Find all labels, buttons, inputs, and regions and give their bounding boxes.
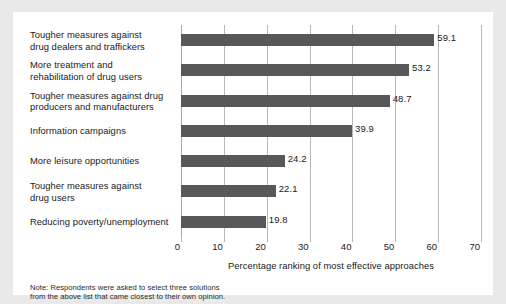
category-label: Information campaigns	[30, 125, 180, 137]
category-label: Reducing poverty/unemployment	[30, 216, 180, 228]
bar-value-label: 24.2	[288, 153, 307, 164]
bar-row: 19.8	[181, 207, 481, 237]
x-tick-mark-20	[267, 237, 268, 242]
bar	[181, 64, 409, 76]
bar-value-label: 48.7	[393, 93, 412, 104]
x-tick-mark-40	[352, 237, 353, 242]
category-label: Tougher measures against drugproducers a…	[30, 90, 180, 113]
category-label-line: Tougher measures against drug	[30, 90, 180, 102]
x-tick-label-10: 10	[193, 241, 223, 252]
x-tick-mark-60	[438, 237, 439, 242]
chart-note-line-1: Note: Respondents were asked to select t…	[30, 283, 225, 292]
x-tick-label-20: 20	[236, 241, 266, 252]
chart-figure: Tougher measures againstdrug dealers and…	[13, 12, 493, 295]
chart-note: Note: Respondents were asked to select t…	[30, 283, 225, 302]
bar-value-label: 39.9	[355, 123, 374, 134]
gridline-70	[481, 25, 482, 237]
x-tick-mark-30	[310, 237, 311, 242]
category-axis-labels: Tougher measures againstdrug dealers and…	[13, 25, 176, 237]
category-label: Tougher measures againstdrug users	[30, 180, 180, 203]
bar-row: 53.2	[181, 55, 481, 85]
x-tick-label-50: 50	[364, 241, 394, 252]
x-tick-label-0: 0	[150, 241, 180, 252]
category-label: More leisure opportunities	[30, 155, 180, 167]
bar-value-label: 19.8	[269, 214, 288, 225]
plot-area: 59.153.248.739.924.222.119.8	[181, 25, 481, 237]
x-axis: 010203040506070	[181, 237, 481, 255]
bar-value-label: 59.1	[437, 32, 456, 43]
bar-value-label: 53.2	[412, 62, 431, 73]
x-tick-mark-70	[481, 237, 482, 242]
category-label-line: Tougher measures against	[30, 180, 180, 192]
bar	[181, 125, 352, 137]
bar	[181, 155, 285, 167]
x-tick-label-40: 40	[321, 241, 351, 252]
category-label-line: More treatment and	[30, 59, 180, 71]
bar-row: 24.2	[181, 146, 481, 176]
x-axis-title: Percentage ranking of most effective app…	[181, 260, 481, 271]
bar	[181, 185, 276, 197]
chart-note-line-2: from the above list that came closest to…	[30, 292, 225, 301]
x-tick-mark-50	[395, 237, 396, 242]
x-tick-mark-10	[224, 237, 225, 242]
category-label-line: Information campaigns	[30, 125, 180, 137]
x-tick-label-60: 60	[407, 241, 437, 252]
category-label-line: Reducing poverty/unemployment	[30, 216, 180, 228]
x-tick-label-30: 30	[279, 241, 309, 252]
x-tick-mark-0	[181, 237, 182, 242]
bar-row: 59.1	[181, 25, 481, 55]
category-label-line: rehabilitation of drug users	[30, 71, 180, 83]
category-label: Tougher measures againstdrug dealers and…	[30, 29, 180, 52]
category-label-line: drug users	[30, 192, 180, 204]
bar	[181, 34, 434, 46]
bar	[181, 216, 266, 228]
category-label-line: More leisure opportunities	[30, 155, 180, 167]
bar-row: 22.1	[181, 176, 481, 206]
category-label-line: producers and manufacturers	[30, 101, 180, 113]
category-label: More treatment andrehabilitation of drug…	[30, 59, 180, 82]
category-label-line: Tougher measures against	[30, 29, 180, 41]
bar-value-label: 22.1	[279, 183, 298, 194]
x-tick-label-70: 70	[450, 241, 480, 252]
bar-row: 48.7	[181, 86, 481, 116]
bar	[181, 95, 390, 107]
category-label-line: drug dealers and traffickers	[30, 41, 180, 53]
bar-row: 39.9	[181, 116, 481, 146]
